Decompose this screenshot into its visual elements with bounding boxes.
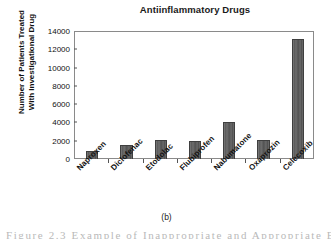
y-axis-tick-mark — [74, 104, 77, 105]
x-axis-tick-mark — [108, 159, 109, 163]
chart-title: Antiinflammatory Drugs — [60, 4, 330, 15]
bar — [292, 39, 304, 159]
y-axis-tick-label: 8000 — [32, 81, 70, 90]
x-axis-tick-mark — [211, 159, 212, 163]
x-axis-tick-mark — [143, 159, 144, 163]
y-axis-tick-label: 14000 — [32, 27, 70, 36]
x-axis-tick-mark — [245, 159, 246, 163]
x-axis-tick-mark — [177, 159, 178, 163]
y-axis-tick-label: 12000 — [32, 45, 70, 54]
y-axis-tick-mark — [74, 140, 77, 141]
y-axis-tick-labels: 02000400060008000100001200014000 — [32, 31, 70, 159]
y-axis-tick-label: 0 — [32, 155, 70, 164]
y-axis-tick-mark — [74, 67, 77, 68]
y-axis-tick-mark — [74, 49, 77, 50]
x-axis-tick-mark — [280, 159, 281, 163]
y-axis-tick-label: 6000 — [32, 100, 70, 109]
y-axis-title-line-1: Number of Patients Treated — [17, 10, 28, 114]
y-axis-tick-label: 4000 — [32, 118, 70, 127]
figure-caption-fragment: Figure 2.3 Example of Inappropriate and … — [6, 229, 331, 239]
y-axis-tick-label: 2000 — [32, 136, 70, 145]
y-axis-tick-mark — [74, 122, 77, 123]
panel-caption: (b) — [0, 212, 333, 222]
y-axis-tick-mark — [74, 85, 77, 86]
figure-panel: Antiinflammatory Drugs Number of Patient… — [0, 0, 333, 239]
y-axis-tick-label: 10000 — [32, 63, 70, 72]
